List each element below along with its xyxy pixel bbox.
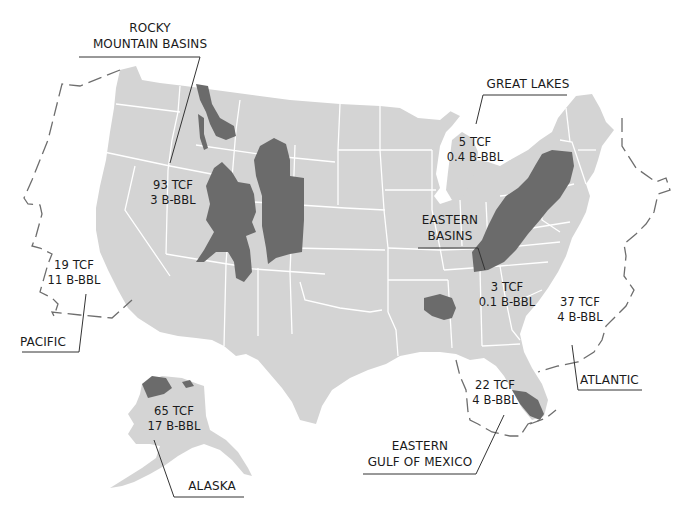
label-rocky-mountain-basins: ROCKY MOUNTAIN BASINS — [80, 20, 220, 52]
region-name-line: ROCKY — [80, 20, 220, 36]
oil-value: 0.1 B-BBL — [472, 295, 542, 310]
region-name-line: GULF OF MEXICO — [360, 454, 480, 470]
value-great-lakes: 5 TCF 0.4 B-BBL — [440, 135, 510, 165]
gas-value: 3 TCF — [472, 280, 542, 295]
oil-value: 3 B-BBL — [143, 193, 203, 208]
oil-value: 0.4 B-BBL — [440, 150, 510, 165]
gas-value: 5 TCF — [440, 135, 510, 150]
gas-value: 19 TCF — [40, 258, 108, 273]
gas-value: 37 TCF — [550, 295, 610, 310]
label-atlantic: ATLANTIC — [580, 372, 650, 388]
region-name-line: GREAT LAKES — [478, 76, 578, 92]
value-pacific: 19 TCF 11 B-BBL — [40, 258, 108, 288]
label-alaska: ALASKA — [182, 478, 242, 494]
region-name-line: PACIFIC — [20, 334, 80, 350]
oil-value: 4 B-BBL — [550, 310, 610, 325]
label-great-lakes: GREAT LAKES — [478, 76, 578, 92]
gas-value: 65 TCF — [143, 404, 205, 419]
label-eastern-gulf-of-mexico: EASTERN GULF OF MEXICO — [360, 438, 480, 470]
value-alaska: 65 TCF 17 B-BBL — [143, 404, 205, 434]
value-atlantic: 37 TCF 4 B-BBL — [550, 295, 610, 325]
region-name-line: MOUNTAIN BASINS — [80, 36, 220, 52]
oil-value: 17 B-BBL — [143, 419, 205, 434]
gas-value: 22 TCF — [465, 378, 525, 393]
label-eastern-basins: EASTERN BASINS — [414, 212, 486, 244]
region-name-line: EASTERN — [360, 438, 480, 454]
region-name-line: ATLANTIC — [580, 372, 650, 388]
oil-value: 4 B-BBL — [465, 393, 525, 408]
value-eastern-gulf-of-mexico: 22 TCF 4 B-BBL — [465, 378, 525, 408]
region-name-line: EASTERN — [414, 212, 486, 228]
label-pacific: PACIFIC — [20, 334, 80, 350]
region-name-line: BASINS — [414, 228, 486, 244]
oil-value: 11 B-BBL — [40, 273, 108, 288]
gas-value: 93 TCF — [143, 178, 203, 193]
value-eastern-basins: 3 TCF 0.1 B-BBL — [472, 280, 542, 310]
region-name-line: ALASKA — [182, 478, 242, 494]
value-rocky-mountain-basins: 93 TCF 3 B-BBL — [143, 178, 203, 208]
